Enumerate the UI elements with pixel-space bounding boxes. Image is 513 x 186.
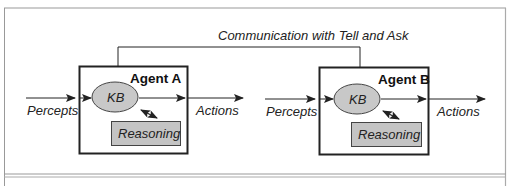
agent-b: Agent B KB Reasoning Percepts Actions — [265, 68, 485, 155]
multi-agent-diagram: Communication with Tell and Ask Agent A … — [0, 0, 513, 186]
actions-label: Actions — [195, 103, 239, 118]
actions-label: Actions — [436, 104, 480, 119]
reasoning-label: Reasoning — [118, 126, 181, 141]
agent-title: Agent B — [378, 72, 430, 87]
percepts-label: Percepts — [27, 103, 79, 118]
communication-label: Communication with Tell and Ask — [218, 28, 410, 43]
reasoning-label: Reasoning — [358, 127, 421, 142]
kb-label: KB — [349, 92, 367, 107]
percepts-label: Percepts — [266, 104, 318, 119]
agent-a: Agent A KB Reasoning Percepts Actions — [26, 67, 243, 154]
kb-label: KB — [107, 90, 125, 105]
agent-title: Agent A — [130, 71, 181, 86]
